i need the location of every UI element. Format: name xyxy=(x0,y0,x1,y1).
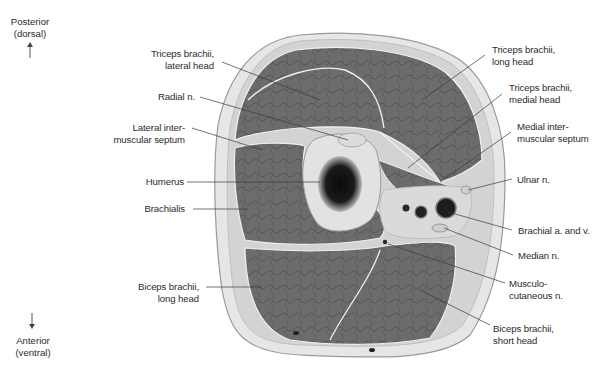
label-line: medial head xyxy=(509,94,572,106)
label-line: Triceps brachii, xyxy=(509,82,572,94)
radial-nerve-shape xyxy=(338,133,366,147)
label-line: Ulnar n. xyxy=(517,174,550,186)
arrow-down-icon xyxy=(29,313,35,329)
vein-small xyxy=(403,205,410,212)
superficial-vein xyxy=(369,348,375,352)
label-humerus: Humerus xyxy=(146,176,184,188)
label-line: Humerus xyxy=(146,176,184,188)
label-line: Medial inter- xyxy=(517,121,589,133)
label-line: lateral head xyxy=(151,60,214,72)
bone-marrow xyxy=(318,156,362,212)
label-line: Brachial a. and v. xyxy=(518,225,590,237)
arrow-up-icon xyxy=(27,42,33,58)
label-line: cutaneous n. xyxy=(509,290,563,302)
median-nerve-shape xyxy=(432,224,448,232)
label-medial-intermuscular-septum: Medial inter- muscular septum xyxy=(517,121,589,145)
label-brachialis: Brachialis xyxy=(144,203,185,215)
musculocutaneous-nerve-shape xyxy=(383,240,387,244)
label-line: Radial n. xyxy=(158,91,195,103)
label-line: muscular septum xyxy=(517,133,589,145)
label-median-nerve: Median n. xyxy=(518,250,559,262)
label-brachial-artery-vein: Brachial a. and v. xyxy=(518,225,590,237)
orientation-anterior-line1: Anterior xyxy=(1,335,65,347)
orientation-posterior-line2: (dorsal) xyxy=(0,28,62,40)
label-line: Lateral inter- xyxy=(113,122,185,134)
label-line: Biceps brachii, xyxy=(493,323,554,335)
label-triceps-medial-head: Triceps brachii, medial head xyxy=(509,82,572,106)
label-line: Median n. xyxy=(518,250,559,262)
brachial-vein xyxy=(415,206,427,218)
orientation-posterior: Posterior (dorsal) xyxy=(0,16,62,40)
label-triceps-lateral-head: Triceps brachii, lateral head xyxy=(151,48,214,72)
label-line: long head xyxy=(138,293,199,305)
label-line: Brachialis xyxy=(144,203,185,215)
label-biceps-short-head: Biceps brachii, short head xyxy=(493,323,554,347)
label-line: long head xyxy=(492,56,555,68)
orientation-anterior: Anterior (ventral) xyxy=(1,335,65,359)
label-line: short head xyxy=(493,335,554,347)
orientation-posterior-line1: Posterior xyxy=(0,16,62,28)
label-biceps-long-head: Biceps brachii, long head xyxy=(138,281,199,305)
label-triceps-long-head: Triceps brachii, long head xyxy=(492,44,555,68)
label-line: Triceps brachii, xyxy=(151,48,214,60)
label-ulnar-nerve: Ulnar n. xyxy=(517,174,550,186)
superficial-vein xyxy=(293,331,299,335)
label-radial-nerve: Radial n. xyxy=(158,91,195,103)
biceps-muscle-group xyxy=(245,242,456,344)
label-line: Musculo- xyxy=(509,278,563,290)
label-line: muscular septum xyxy=(113,134,185,146)
label-lateral-intermuscular-septum: Lateral inter- muscular septum xyxy=(113,122,185,146)
label-line: Biceps brachii, xyxy=(138,281,199,293)
label-musculocutaneous-nerve: Musculo- cutaneous n. xyxy=(509,278,563,302)
orientation-anterior-line2: (ventral) xyxy=(1,347,65,359)
label-line: Triceps brachii, xyxy=(492,44,555,56)
ulnar-nerve-shape xyxy=(461,186,471,194)
brachial-artery xyxy=(436,198,456,218)
humerus-bone xyxy=(303,134,381,231)
